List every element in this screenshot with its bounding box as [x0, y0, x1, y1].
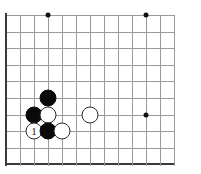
grid-line-vertical — [132, 15, 133, 166]
grid-line-vertical — [76, 15, 77, 166]
grid-line-vertical — [160, 15, 161, 166]
grid-line-vertical — [104, 15, 105, 166]
grid-line-vertical — [62, 15, 63, 166]
grid-line-vertical — [34, 15, 35, 166]
grid-line-vertical — [90, 15, 91, 166]
go-board-diagram: 1 — [0, 0, 201, 174]
star-point — [144, 13, 149, 18]
grid-line-vertical — [118, 15, 119, 166]
stone-white — [40, 106, 57, 123]
grid-line-vertical — [146, 15, 147, 166]
stone-white — [54, 123, 71, 140]
stone-black — [40, 90, 57, 107]
grid-line-vertical — [20, 15, 21, 166]
stone-white — [82, 106, 99, 123]
grid-line-vertical — [174, 15, 175, 166]
stone-move-number: 1 — [31, 125, 37, 136]
board-edge-left — [5, 13, 7, 166]
star-point — [144, 112, 149, 117]
star-point — [46, 13, 51, 18]
